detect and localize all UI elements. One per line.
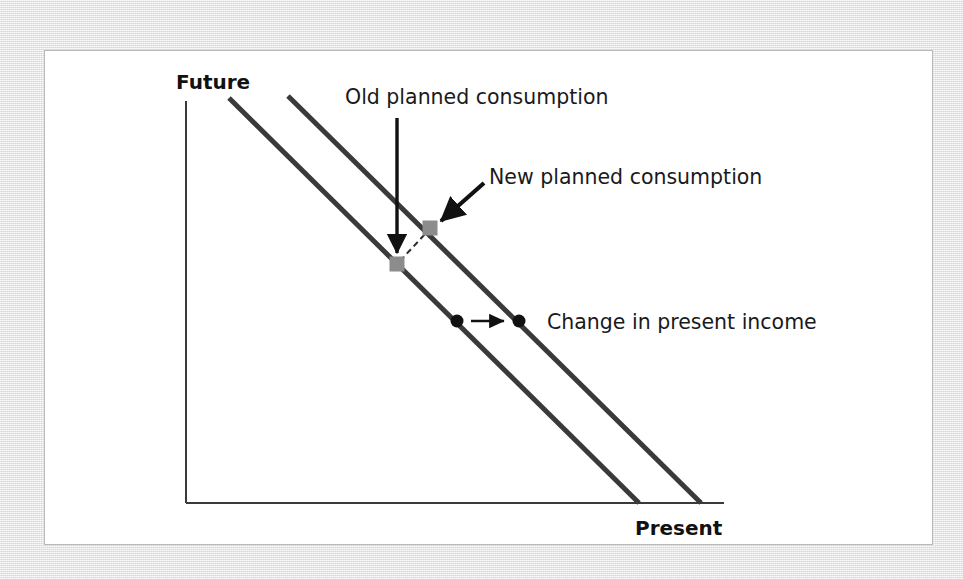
new-planned-pointer-arrow [441,183,484,221]
new-income-dot [513,315,526,328]
old-consumption-marker [390,257,405,272]
x-axis-label: Present [635,516,723,540]
new-budget-line [288,96,701,503]
figure-card: Future Present Old planned consumption N… [44,50,933,545]
old-budget-line [229,98,639,503]
economics-diagram-svg: Future Present Old planned consumption N… [45,51,934,546]
pointer-arrows-group [397,118,484,253]
old-planned-consumption-label: Old planned consumption [345,85,609,109]
y-axis-label: Future [176,70,250,94]
change-in-present-income-label: Change in present income [547,310,817,334]
new-consumption-marker [423,221,438,236]
new-planned-consumption-label: New planned consumption [489,165,762,189]
budget-lines-group [229,96,701,503]
figure-background: Future Present Old planned consumption N… [0,0,963,579]
old-income-dot [451,315,464,328]
